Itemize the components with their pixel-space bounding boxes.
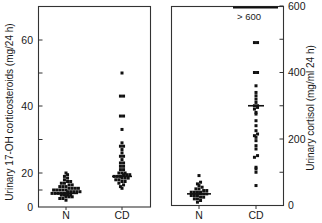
data-point xyxy=(74,187,77,190)
data-point xyxy=(117,178,120,181)
left-panel-frame xyxy=(39,7,151,208)
data-point xyxy=(122,165,125,168)
data-point xyxy=(121,128,124,131)
data-point xyxy=(119,161,122,164)
data-point xyxy=(255,167,258,170)
y-tick-label: 20 xyxy=(21,167,33,179)
data-point xyxy=(202,189,205,192)
data-point xyxy=(253,71,256,74)
data-point xyxy=(202,196,205,199)
data-point xyxy=(55,189,58,192)
data-point xyxy=(256,71,259,74)
data-point xyxy=(61,189,64,192)
data-point xyxy=(122,183,125,186)
data-point xyxy=(51,192,54,195)
data-point xyxy=(121,72,124,75)
data-point xyxy=(256,154,259,157)
data-point xyxy=(77,187,80,190)
data-point xyxy=(201,186,204,189)
data-point xyxy=(255,129,258,132)
data-point xyxy=(119,168,122,171)
data-point xyxy=(52,189,55,192)
right-x-label-n: N xyxy=(195,209,203,221)
data-point xyxy=(124,180,127,183)
data-point xyxy=(198,174,201,177)
y-tick-label: 400 xyxy=(288,66,306,78)
data-point xyxy=(199,181,202,184)
data-point xyxy=(193,197,196,200)
right-panel-frame xyxy=(172,7,284,206)
data-point xyxy=(66,180,69,183)
y-tick-label: 0 xyxy=(27,201,33,213)
data-point xyxy=(119,95,122,98)
data-point xyxy=(65,199,68,202)
y-tick-label: 60 xyxy=(21,34,33,46)
data-point xyxy=(117,182,120,185)
data-point xyxy=(122,115,125,118)
data-point xyxy=(71,195,74,198)
y-tick-label: 40 xyxy=(21,100,33,112)
right-x-label-cd: CD xyxy=(248,209,264,221)
data-point xyxy=(58,197,61,200)
data-point xyxy=(255,84,258,87)
data-point xyxy=(68,195,71,198)
left-panel: 0204060 Urinary 17-OH corticosteroids (m… xyxy=(4,7,151,222)
data-point xyxy=(78,190,81,193)
left-x-label-cd: CD xyxy=(114,209,130,221)
left-x-label-n: N xyxy=(62,209,70,221)
right-data-points xyxy=(187,8,278,204)
data-point xyxy=(196,197,199,200)
dot-plot-figure: 0204060 Urinary 17-OH corticosteroids (m… xyxy=(0,0,322,223)
data-point xyxy=(60,182,63,185)
data-point xyxy=(255,94,258,97)
data-point xyxy=(121,148,124,151)
data-point xyxy=(121,151,124,154)
data-point xyxy=(122,161,125,164)
data-point xyxy=(255,113,258,116)
data-point xyxy=(255,144,258,147)
data-point xyxy=(122,155,125,158)
data-point xyxy=(66,173,69,176)
data-point xyxy=(255,124,258,127)
data-point xyxy=(68,183,71,186)
data-point xyxy=(253,108,256,111)
data-point xyxy=(119,155,122,158)
data-point xyxy=(121,158,124,161)
data-point xyxy=(121,141,124,144)
data-point xyxy=(199,196,202,199)
data-point xyxy=(255,91,258,94)
data-point xyxy=(205,189,208,192)
left-y-axis-label: Urinary 17-OH corticosteroids (mg/24 h) xyxy=(4,23,15,200)
right-panel: 0200400600 > 600 Urinary cortisol (mg/ml… xyxy=(172,0,317,221)
data-point xyxy=(255,147,258,150)
data-point xyxy=(71,183,74,186)
data-point xyxy=(255,184,258,187)
data-point xyxy=(198,184,201,187)
y-tick-label: 600 xyxy=(288,0,306,12)
data-point xyxy=(199,199,202,202)
data-point xyxy=(119,145,122,148)
data-point xyxy=(255,119,258,122)
data-point xyxy=(65,195,68,198)
data-point xyxy=(65,185,68,188)
data-point xyxy=(63,175,66,178)
data-point xyxy=(255,136,258,139)
data-point xyxy=(71,187,74,190)
data-point xyxy=(253,156,256,159)
data-point xyxy=(117,172,120,175)
data-point xyxy=(196,201,199,204)
right-annotation-over-600: > 600 xyxy=(237,11,261,22)
data-point xyxy=(114,178,117,181)
data-point xyxy=(63,178,66,181)
data-point xyxy=(256,41,259,44)
data-point xyxy=(198,187,201,190)
right-y-axis-label: Urinary cortisol (mg/ml 24 h) xyxy=(305,45,316,171)
data-point xyxy=(66,177,69,180)
data-point xyxy=(58,189,61,192)
left-data-points xyxy=(51,72,132,202)
data-point xyxy=(63,182,66,185)
data-point xyxy=(255,139,258,142)
data-point xyxy=(194,187,197,190)
data-point xyxy=(68,187,71,190)
y-tick-label: 0 xyxy=(288,199,294,211)
